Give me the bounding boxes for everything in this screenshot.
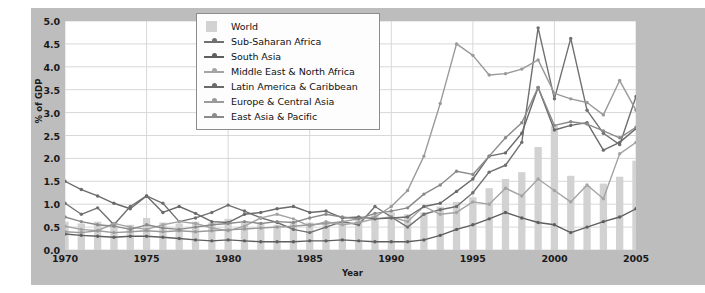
- series-marker: [602, 197, 605, 200]
- series-marker: [422, 192, 425, 195]
- x-tick-label: 1995: [443, 253, 503, 264]
- series-marker: [487, 154, 490, 157]
- y-axis-ticks: 0.00.51.01.52.02.53.03.54.04.55.0: [12, 0, 60, 293]
- bar: [567, 176, 574, 250]
- series-marker: [439, 213, 442, 216]
- series-marker: [178, 220, 181, 223]
- legend-item[interactable]: Latin America & Caribbean: [203, 79, 372, 94]
- legend-item[interactable]: World: [203, 19, 372, 34]
- bar: [143, 218, 150, 250]
- series-marker: [455, 170, 458, 173]
- series-marker: [439, 183, 442, 186]
- series-marker: [602, 113, 605, 116]
- series-marker: [357, 221, 360, 224]
- series-marker: [504, 72, 507, 75]
- series-marker: [455, 42, 458, 45]
- y-tick-label: 0.5: [20, 222, 60, 233]
- legend-item[interactable]: East Asia & Pacific: [203, 109, 372, 124]
- series-marker: [536, 177, 539, 180]
- series-marker: [455, 190, 458, 193]
- series-marker: [129, 228, 132, 231]
- y-tick-label: 5.0: [20, 16, 60, 27]
- series-marker: [292, 224, 295, 227]
- legend-label: Middle East & North Africa: [231, 66, 355, 77]
- series-marker: [80, 228, 83, 231]
- series-marker: [96, 235, 99, 238]
- series-marker: [553, 124, 556, 127]
- series-marker: [373, 240, 376, 243]
- series-marker: [145, 235, 148, 238]
- series-marker: [536, 86, 539, 89]
- y-tick-label: 2.0: [20, 153, 60, 164]
- series-marker: [161, 230, 164, 233]
- series-marker: [210, 239, 213, 242]
- legend-label: East Asia & Pacific: [231, 111, 317, 122]
- legend-item[interactable]: Middle East & North Africa: [203, 64, 372, 79]
- series-marker: [487, 73, 490, 76]
- series-marker: [553, 128, 556, 131]
- series-marker: [112, 231, 115, 234]
- series-marker: [504, 151, 507, 154]
- series-marker: [145, 229, 148, 232]
- legend-item[interactable]: Europe & Central Asia: [203, 94, 372, 109]
- bar: [632, 161, 636, 250]
- series-marker: [80, 213, 83, 216]
- series-marker: [471, 177, 474, 180]
- series-marker: [569, 97, 572, 100]
- series-marker: [161, 235, 164, 238]
- series-marker: [422, 205, 425, 208]
- x-axis-ticks: 19701975198019851990199520002005: [0, 253, 705, 269]
- series-marker: [585, 122, 588, 125]
- series-marker: [569, 120, 572, 123]
- series-marker: [112, 224, 115, 227]
- series-marker: [390, 205, 393, 208]
- series-marker: [618, 152, 621, 155]
- series-marker: [292, 217, 295, 220]
- series-marker: [145, 223, 148, 226]
- legend-label: Europe & Central Asia: [231, 96, 334, 107]
- series-marker: [226, 203, 229, 206]
- series-marker: [422, 213, 425, 216]
- legend-label: Sub-Saharan Africa: [231, 36, 321, 47]
- x-tick-label: 1985: [280, 253, 340, 264]
- series-marker: [226, 222, 229, 225]
- series-marker: [341, 223, 344, 226]
- series-marker: [259, 211, 262, 214]
- series-marker: [194, 222, 197, 225]
- series-marker: [373, 215, 376, 218]
- legend-line-icon: [203, 36, 225, 47]
- series-marker: [520, 67, 523, 70]
- series-marker: [634, 95, 636, 98]
- series-marker: [210, 223, 213, 226]
- legend-label: South Asia: [231, 51, 281, 62]
- series-marker: [194, 225, 197, 228]
- legend-item[interactable]: South Asia: [203, 49, 372, 64]
- series-marker: [536, 221, 539, 224]
- series-marker: [406, 206, 409, 209]
- bar: [453, 202, 460, 250]
- x-axis-label: Year: [0, 268, 705, 278]
- series-marker: [553, 97, 556, 100]
- series-marker: [292, 228, 295, 231]
- legend-item[interactable]: Sub-Saharan Africa: [203, 34, 372, 49]
- series-marker: [80, 188, 83, 191]
- series-marker: [536, 26, 539, 29]
- series-marker: [569, 124, 572, 127]
- series-marker: [455, 211, 458, 214]
- series-marker: [487, 217, 490, 220]
- series-marker: [259, 226, 262, 229]
- x-tick-label: 1990: [361, 253, 421, 264]
- series-marker: [390, 209, 393, 212]
- series-marker: [324, 239, 327, 242]
- chart-legend: WorldSub-Saharan AfricaSouth AsiaMiddle …: [196, 13, 380, 130]
- series-marker: [422, 154, 425, 157]
- series-marker: [308, 231, 311, 234]
- series-marker: [259, 216, 262, 219]
- series-marker: [226, 238, 229, 241]
- series-marker: [569, 231, 572, 234]
- series-marker: [275, 207, 278, 210]
- series-marker: [161, 226, 164, 229]
- series-marker: [324, 213, 327, 216]
- series-marker: [618, 215, 621, 218]
- series-marker: [112, 235, 115, 238]
